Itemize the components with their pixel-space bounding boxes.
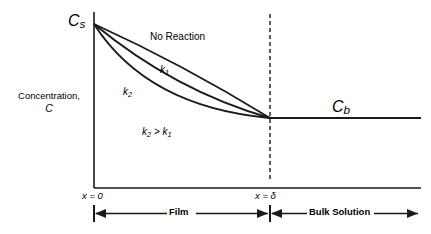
y-axis-title: Concentration, C [10, 91, 88, 114]
concentration-profile-figure: Cs Cb Concentration, C No Reaction k1 k2… [0, 0, 431, 234]
cb-label: Cb [332, 98, 350, 116]
k2-curve-label: k2 [123, 86, 132, 98]
x-delta-tick-label: x = δ [255, 191, 276, 202]
cs-label: Cs [68, 12, 85, 30]
region-label-bulk-solution: Bulk Solution [307, 207, 372, 218]
x-zero-tick-label: x = 0 [82, 191, 103, 202]
region-label-film: Film [167, 207, 191, 218]
rate-constant-inequality: k2 > k1 [142, 126, 172, 138]
k1-curve-label: k1 [160, 64, 169, 76]
no-reaction-label: No Reaction [150, 31, 205, 43]
diagram-canvas [0, 0, 431, 234]
